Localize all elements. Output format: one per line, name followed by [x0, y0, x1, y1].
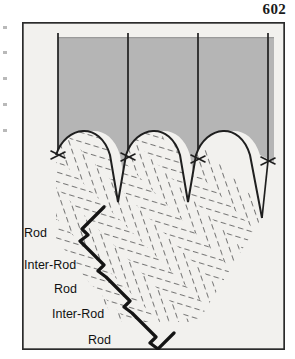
page-number: 602	[263, 1, 286, 18]
label-rod-3: Rod	[88, 333, 111, 347]
label-rod-1: Rod	[24, 226, 47, 240]
label-inter-rod-2: Inter-Rod	[52, 307, 104, 321]
label-rod-2: Rod	[54, 282, 77, 296]
figure-page: 602	[0, 0, 295, 359]
figure-frame: Rod Inter-Rod Rod Inter-Rod Rod	[22, 22, 285, 350]
scan-artifact	[3, 77, 7, 80]
label-inter-rod-1: Inter-Rod	[24, 258, 76, 272]
scan-artifact	[3, 26, 7, 29]
scan-artifact	[3, 51, 7, 54]
scan-artifact	[3, 103, 7, 106]
scan-artifact	[3, 129, 7, 132]
